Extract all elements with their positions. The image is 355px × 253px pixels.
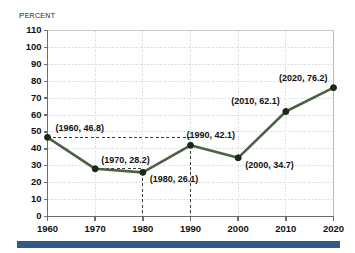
x-tick-label: 2020: [314, 224, 354, 234]
y-tick-label: 30: [14, 160, 42, 170]
data-point-label: (2020, 76.2): [279, 73, 328, 83]
y-tick-label: 80: [14, 76, 42, 86]
y-tick-label: 60: [14, 110, 42, 120]
x-tick-label: 1980: [123, 224, 163, 234]
chart-canvas: [0, 0, 355, 253]
x-tick-label: 2010: [266, 224, 306, 234]
x-tick-label: 1960: [28, 224, 68, 234]
bottom-rule-bar: [17, 241, 340, 248]
y-tick-label: 70: [14, 93, 42, 103]
data-point-label: (1970, 28.2): [101, 155, 150, 165]
y-tick-label: 20: [14, 177, 42, 187]
y-tick-label: 40: [14, 143, 42, 153]
y-tick-label: 90: [14, 59, 42, 69]
x-tick-label: 1990: [171, 224, 211, 234]
x-tick-label: 2000: [218, 224, 258, 234]
x-tick-label: 1970: [75, 224, 115, 234]
y-tick-label: 110: [14, 25, 42, 35]
y-tick-label: 50: [14, 126, 42, 136]
y-tick-label: 10: [14, 194, 42, 204]
data-point-label: (1980, 26.1): [150, 174, 199, 184]
data-point-label: (1990, 42.1): [187, 130, 236, 140]
data-point-label: (1960, 46.8): [56, 123, 105, 133]
data-point-label: (2010, 62.1): [231, 96, 280, 106]
y-tick-label: 0: [14, 211, 42, 221]
y-tick-label: 100: [14, 42, 42, 52]
data-point-label: (2000, 34.7): [245, 160, 294, 170]
line-chart-figure: Percent 1101009080706050403020100 196019…: [0, 0, 355, 253]
